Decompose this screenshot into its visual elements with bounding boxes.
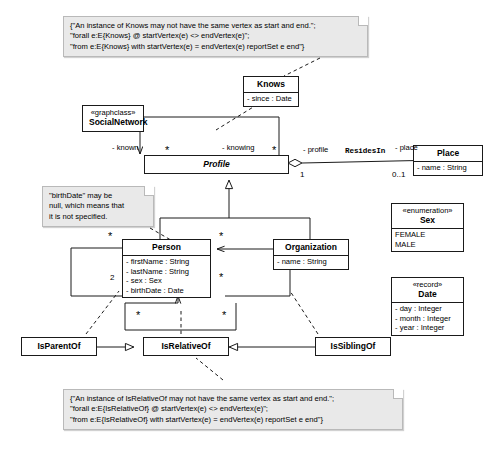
uml-class-diagram: {"An instance of Knows may not have the … <box>0 0 490 453</box>
attribute: - day : Integer <box>395 304 460 314</box>
class-name: Sex <box>392 215 463 228</box>
class-stereotype: «enumeration» <box>392 204 463 215</box>
class-attributes: - day : Integer - month : Integer - year… <box>392 302 463 335</box>
note-fold-icon <box>144 186 154 196</box>
attribute: - lastName : String <box>126 267 207 277</box>
note-line: "birthDate" may be <box>49 191 147 201</box>
note-line: "from e:E{Knows} with startVertex(e) = e… <box>70 42 361 52</box>
class-social-network[interactable]: «graphclass» SocialNetwork <box>82 105 144 132</box>
attribute: - month : Integer <box>395 314 460 324</box>
class-name: Date <box>392 289 463 302</box>
multiplicity-known: * <box>165 146 169 155</box>
class-is-relative-of[interactable]: IsRelativeOf <box>143 337 229 356</box>
multiplicity-knowing: * <box>272 146 276 155</box>
attribute: - since : Date <box>247 94 295 104</box>
association-label-resides-in: ResidesIn <box>345 147 385 156</box>
class-knows[interactable]: Knows - since : Date <box>243 76 299 107</box>
class-attributes: - name : String <box>274 255 348 269</box>
class-person[interactable]: Person - firstName : String - lastName :… <box>122 239 211 298</box>
attribute: - birthDate : Date <box>126 286 207 296</box>
class-attributes: - name : String <box>414 161 482 175</box>
note-fold-icon <box>358 16 368 26</box>
multiplicity-place: 0..1 <box>392 170 405 179</box>
enum-literal: FEMALE <box>395 230 460 240</box>
multiplicity-relative-star-b: * <box>222 311 226 320</box>
note-line: null, which means that <box>49 201 147 211</box>
class-organization[interactable]: Organization - name : String <box>273 239 349 270</box>
class-place[interactable]: Place - name : String <box>413 145 483 176</box>
class-sex-enumeration[interactable]: «enumeration» Sex FEMALE MALE <box>391 203 464 252</box>
class-attributes: - since : Date <box>244 92 298 106</box>
class-name: IsSiblingOf <box>316 338 390 355</box>
class-is-sibling-of[interactable]: IsSiblingOf <box>315 337 391 356</box>
class-name: Profile <box>145 156 288 173</box>
note-line: {"An instance of IsRelativeOf may not ha… <box>70 394 396 404</box>
note-line: it is not specified. <box>49 212 147 222</box>
multiplicity-parent-star: * <box>108 232 112 241</box>
class-name: Knows <box>244 77 298 92</box>
class-name: IsParentOf <box>22 338 96 355</box>
role-label-profile: - profile <box>303 145 328 154</box>
multiplicity-parent-two: 2 <box>110 273 114 282</box>
class-attributes: - firstName : String - lastName : String… <box>123 255 210 297</box>
attribute: - sex : Sex <box>126 276 207 286</box>
class-name: Place <box>414 146 482 161</box>
attribute: - year : Integer <box>395 323 460 333</box>
class-stereotype: «graphclass» <box>83 106 143 117</box>
class-date-record[interactable]: «record» Date - day : Integer - month : … <box>391 277 464 336</box>
role-label-place: - place <box>395 143 418 152</box>
multiplicity-relative-star-a: * <box>136 311 140 320</box>
attribute: - name : String <box>277 257 345 267</box>
knows-constraint-note: {"An instance of Knows may not have the … <box>63 16 368 57</box>
multiplicity-sibling-star-b: * <box>219 273 223 282</box>
note-fold-icon <box>393 389 403 399</box>
multiplicity-profile: 1 <box>300 170 304 179</box>
multiplicity-sibling-star-a: * <box>219 232 223 241</box>
class-is-parent-of[interactable]: IsParentOf <box>21 337 97 356</box>
birthdate-note: "birthDate" may be null, which means tha… <box>42 186 154 227</box>
class-stereotype: «record» <box>392 278 463 289</box>
class-name: Organization <box>274 240 348 255</box>
note-line: {"An instance of Knows may not have the … <box>70 21 361 31</box>
class-name: IsRelativeOf <box>144 338 228 355</box>
isrelativeof-constraint-note: {"An instance of IsRelativeOf may not ha… <box>63 389 403 430</box>
note-line: "forall e:E{Knows} @ startVertex(e) <> e… <box>70 31 361 41</box>
class-name: Person <box>123 240 210 255</box>
note-line: "forall e:E{IsRelativeOf} @ startVertex(… <box>70 404 396 414</box>
note-line: "from e:E{IsRelativeOf} with startVertex… <box>70 415 396 425</box>
class-attributes: FEMALE MALE <box>392 228 463 251</box>
attribute: - firstName : String <box>126 257 207 267</box>
role-label-known: - known <box>112 143 139 152</box>
role-label-knowing: - knowing <box>222 143 255 152</box>
class-profile[interactable]: Profile <box>144 155 289 174</box>
enum-literal: MALE <box>395 240 460 250</box>
class-name: SocialNetwork <box>83 117 143 131</box>
attribute: - name : String <box>417 163 479 173</box>
